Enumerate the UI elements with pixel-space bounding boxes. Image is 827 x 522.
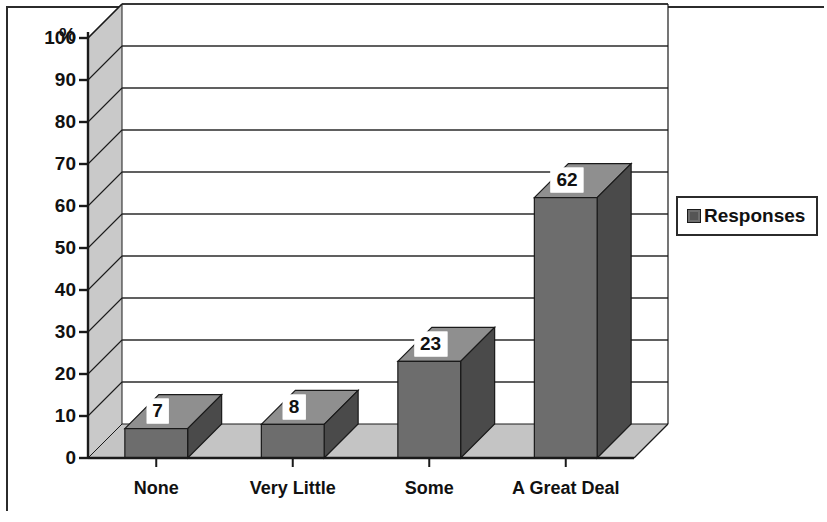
legend-entry-label: Responses bbox=[704, 205, 805, 227]
x-axis-category-label: A Great Deal bbox=[512, 478, 619, 499]
chart-legend: Responses bbox=[676, 196, 818, 236]
y-axis-tick-label: 70 bbox=[18, 154, 76, 173]
x-axis-category-label: None bbox=[134, 478, 179, 499]
bar-value-label: 62 bbox=[550, 167, 583, 192]
y-axis-tick-label: 80 bbox=[18, 112, 76, 131]
y-axis-tick-label: 90 bbox=[18, 70, 76, 89]
bar-value-label: 23 bbox=[414, 331, 447, 356]
bar-value-label: 7 bbox=[146, 398, 169, 423]
y-axis-tick-label: 50 bbox=[18, 238, 76, 257]
chart-plot-svg bbox=[0, 0, 827, 522]
bar-value-label: 8 bbox=[283, 394, 306, 419]
bar-front-face bbox=[534, 198, 597, 458]
x-axis-category-label: Very Little bbox=[250, 478, 336, 499]
bar-column bbox=[534, 164, 631, 458]
chart-3d-column: % 0102030405060708090100 NoneVery Little… bbox=[0, 0, 827, 522]
legend-swatch-icon bbox=[687, 209, 701, 223]
y-axis-tick-label: 60 bbox=[18, 196, 76, 215]
y-axis-tick-label: 100 bbox=[18, 28, 76, 47]
y-axis-tick-label: 40 bbox=[18, 280, 76, 299]
bar-front-face bbox=[398, 361, 461, 458]
y-axis-tick-label: 20 bbox=[18, 364, 76, 383]
bar-side-face bbox=[597, 164, 631, 458]
x-axis-category-label: Some bbox=[405, 478, 454, 499]
y-axis-tick-label: 10 bbox=[18, 406, 76, 425]
bar-front-face bbox=[125, 429, 188, 458]
y-axis-tick-label: 30 bbox=[18, 322, 76, 341]
bar-front-face bbox=[261, 424, 324, 458]
y-axis-tick-label: 0 bbox=[18, 448, 76, 467]
